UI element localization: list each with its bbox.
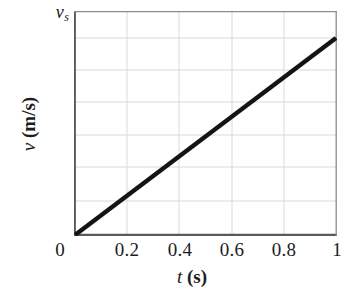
plot-area — [74, 11, 337, 236]
x-tick-label-0p2: 0.2 — [105, 239, 149, 261]
velocity-time-chart: vs — [0, 0, 352, 302]
y-axis-title: v (m/s) — [18, 24, 40, 224]
plot-frame — [74, 11, 337, 236]
x-axis-title-unit: (s) — [187, 266, 207, 287]
x-tick-label-0p4: 0.4 — [158, 239, 202, 261]
y-axis-max-tick-subscript: s — [64, 10, 69, 24]
x-tick-label-0: 0 — [38, 239, 82, 261]
horizontal-gridlines — [74, 38, 337, 201]
y-axis-title-unit: (m/s) — [18, 97, 39, 138]
data-line-velocity — [75, 38, 336, 235]
vertical-gridlines — [127, 11, 284, 236]
x-tick-label-1: 1 — [315, 239, 352, 261]
x-axis-title: t (s) — [0, 266, 352, 288]
y-axis-max-tick-variable: v — [56, 2, 64, 22]
x-tick-label-0p8: 0.8 — [262, 239, 306, 261]
y-axis-title-variable: v — [18, 143, 39, 151]
grid-and-series-svg — [74, 11, 337, 236]
x-tick-label-0p6: 0.6 — [210, 239, 254, 261]
y-axis-max-tick-label: vs — [56, 2, 69, 27]
